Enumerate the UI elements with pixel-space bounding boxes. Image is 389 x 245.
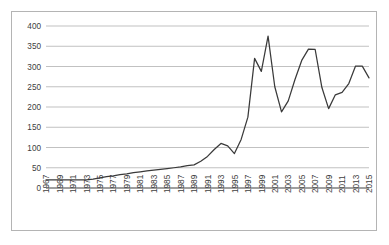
x-axis-tick-label: 1971: [69, 174, 78, 193]
y-axis-tick-label: 50: [32, 164, 42, 173]
y-axis-tick-labels: 050100150200250300350400: [27, 22, 41, 193]
x-axis-tick-label: 1977: [109, 174, 118, 193]
data-series-group: [46, 36, 369, 180]
x-axis-tick-label: 1969: [56, 174, 65, 193]
x-axis-tick-label: 1999: [258, 174, 267, 193]
y-axis-tick-label: 200: [27, 103, 41, 112]
x-axis-tick-label: 1981: [136, 174, 145, 193]
x-axis-tick-label: 1973: [83, 174, 92, 193]
y-axis-tick-label: 350: [27, 42, 41, 51]
y-axis-tick-label: 250: [27, 83, 41, 92]
y-axis-tick-label: 400: [27, 22, 41, 31]
line-chart: 050100150200250300350400 196719691971197…: [12, 12, 378, 232]
x-axis-tick-label: 1983: [150, 174, 159, 193]
chart-card: 050100150200250300350400 196719691971197…: [11, 11, 377, 231]
x-axis-tick-label: 2005: [298, 174, 307, 193]
x-axis-tick-label: 1985: [163, 174, 172, 193]
x-axis-tick-label: 2001: [271, 174, 280, 193]
gridlines-group: [46, 26, 369, 188]
x-axis-tick-label: 1967: [42, 174, 51, 193]
x-axis-tick-label: 1991: [204, 174, 213, 193]
x-axis-tick-labels: 1967196919711973197519771979198119831985…: [42, 174, 374, 193]
x-axis-tick-label: 2013: [352, 174, 361, 193]
y-axis-tick-label: 150: [27, 123, 41, 132]
x-axis-tick-label: 1995: [231, 174, 240, 193]
x-axis-tick-label: 1979: [123, 174, 132, 193]
x-axis-tick-label: 1993: [217, 174, 226, 193]
chart-svg: 050100150200250300350400 196719691971197…: [12, 12, 378, 232]
x-axis-tick-label: 2003: [284, 174, 293, 193]
x-axis-tick-label: 2007: [311, 174, 320, 193]
y-axis-tick-label: 300: [27, 63, 41, 72]
y-axis-tick-label: 100: [27, 144, 41, 153]
data-line-series-1: [46, 36, 369, 180]
x-axis-tick-label: 2015: [365, 174, 374, 193]
y-axis-tick-label: 0: [36, 184, 41, 193]
x-axis-tick-label: 2011: [338, 175, 347, 193]
x-axis-tick-label: 1989: [190, 174, 199, 193]
x-axis-tick-label: 1987: [177, 174, 186, 193]
x-axis-tick-label: 2009: [325, 174, 334, 193]
x-axis-tick-label: 1997: [244, 174, 253, 193]
